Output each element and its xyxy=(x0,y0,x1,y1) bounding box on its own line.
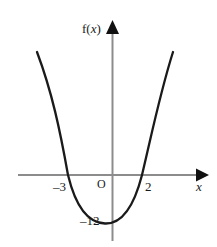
fx-prefix: f( xyxy=(82,21,91,36)
origin-label: O xyxy=(97,178,106,190)
fx-suffix: ) xyxy=(96,21,100,36)
left-root-label: –3 xyxy=(53,180,66,193)
vertex-label: –12 xyxy=(80,214,100,227)
y-axis-arrowhead xyxy=(106,20,119,34)
x-axis-label: x xyxy=(196,180,202,193)
y-axis-label: f(x) xyxy=(82,22,101,35)
right-root-label: 2 xyxy=(145,180,152,193)
graph-canvas xyxy=(0,0,217,247)
parabola-figure: f(x) O –3 2 –12 x xyxy=(0,0,217,247)
parabola-curve xyxy=(37,52,173,224)
